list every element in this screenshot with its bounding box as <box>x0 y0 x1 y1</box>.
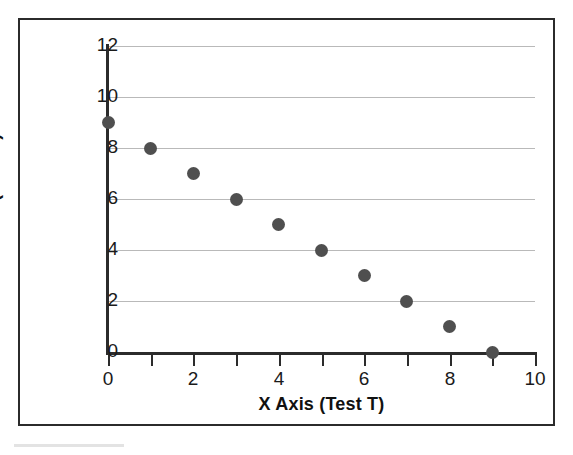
y-tick-label: 6 <box>66 187 118 209</box>
data-point <box>443 320 456 333</box>
x-tick-label: 4 <box>259 368 299 390</box>
gridline <box>108 199 535 200</box>
x-axis-tick <box>193 355 195 366</box>
figure-frame: 0246810 024681012 X Axis (Test T) Y Axis… <box>18 18 555 426</box>
data-point <box>358 269 371 282</box>
x-tick-label: 10 <box>515 368 555 390</box>
x-axis-tick <box>236 355 238 366</box>
x-tick-label: 2 <box>173 368 213 390</box>
data-point <box>102 116 115 129</box>
scan-artifact <box>14 444 124 447</box>
y-tick-label: 0 <box>66 340 118 362</box>
gridline <box>108 97 535 98</box>
x-tick-label: 0 <box>88 368 128 390</box>
x-axis-tick <box>151 355 153 366</box>
y-tick-label: 8 <box>66 136 118 158</box>
x-axis-tick <box>364 355 366 366</box>
y-axis-title: Y Axis (Test U) <box>0 83 4 313</box>
data-point <box>230 193 243 206</box>
x-axis-tick <box>279 355 281 366</box>
gridline <box>108 148 535 149</box>
gridline <box>108 46 535 47</box>
y-tick-label: 2 <box>66 289 118 311</box>
data-point <box>486 346 499 359</box>
data-point <box>272 218 285 231</box>
x-axis-tick <box>407 355 409 366</box>
gridline <box>108 301 535 302</box>
x-axis-title: X Axis (Test T) <box>108 394 535 415</box>
x-axis-tick <box>322 355 324 366</box>
data-point <box>400 295 413 308</box>
x-tick-label: 6 <box>344 368 384 390</box>
y-tick-label: 12 <box>66 34 118 56</box>
y-tick-label: 4 <box>66 238 118 260</box>
data-point <box>144 142 157 155</box>
x-axis-tick <box>450 355 452 366</box>
data-point <box>315 244 328 257</box>
data-point <box>187 167 200 180</box>
x-tick-label: 8 <box>430 368 470 390</box>
x-axis-tick <box>535 355 537 366</box>
y-tick-label: 10 <box>66 85 118 107</box>
